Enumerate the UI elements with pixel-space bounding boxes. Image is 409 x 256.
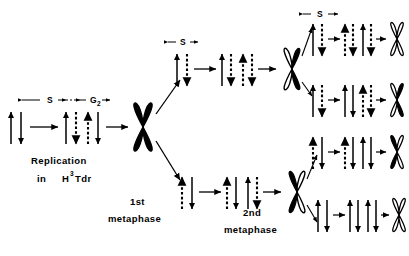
label-s-top-branch: S [180, 37, 186, 47]
label-in: in [37, 173, 46, 184]
diagram-canvas: S G 2 Replication in H 3 Tdr 1st metap [0, 0, 409, 256]
label-replication: Replication [31, 155, 87, 166]
label-metaphase2-line1: 2nd [243, 207, 261, 218]
label-g2: G [90, 95, 97, 105]
label-tracer-superscript: 3 [70, 170, 74, 177]
label-s-far-right: S [317, 9, 323, 19]
replication-diagram: S G 2 Replication in H 3 Tdr 1st metap [0, 0, 409, 256]
label-metaphase1-line2: metaphase [108, 213, 161, 224]
label-g2-subscript: 2 [97, 100, 101, 107]
label-s-first: S [47, 95, 53, 105]
label-metaphase2-line2: metaphase [224, 224, 277, 235]
label-tracer-h: H [62, 173, 69, 184]
label-tracer-tdr: Tdr [75, 173, 92, 184]
background [0, 0, 409, 256]
label-metaphase1-line1: 1st [130, 196, 145, 207]
